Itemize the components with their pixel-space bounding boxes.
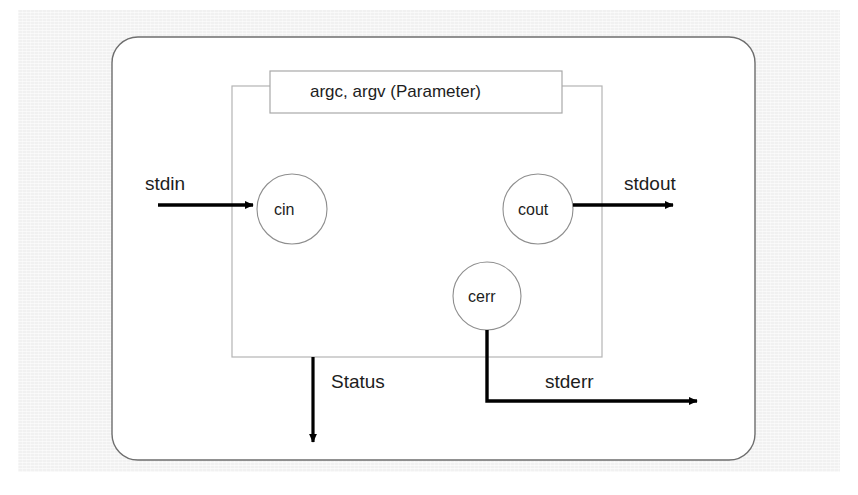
parameter-box-label: argc, argv (Parameter) <box>310 83 481 100</box>
node-cerr-label: cerr <box>468 289 496 305</box>
node-cin-label: cin <box>274 202 294 218</box>
flow-label-stdin: stdin <box>145 174 185 193</box>
stream-diagram-canvas <box>0 0 858 495</box>
diagram-page: argc, argv (Parameter) cin cout cerr std… <box>0 0 858 495</box>
node-cout-label: cout <box>518 202 548 218</box>
flow-label-stdout: stdout <box>624 174 676 193</box>
flow-label-stderr: stderr <box>545 372 594 391</box>
flow-label-status: Status <box>331 372 385 391</box>
